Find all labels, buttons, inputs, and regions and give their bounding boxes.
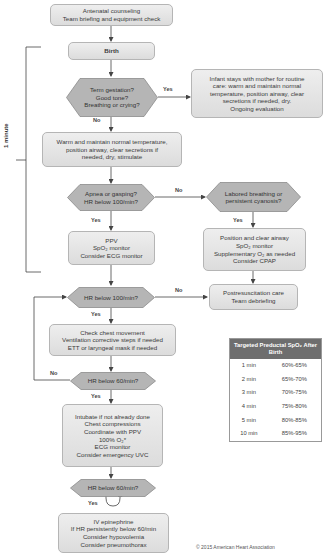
decision-apnea: Apnea or gasping? HR below 100/min? [67,184,155,211]
intubate-box: Intubate if not already done Chest compr… [62,404,163,467]
box-line: PPV [105,237,117,245]
edge-label-yes: Yes [91,311,101,317]
box-line: Warm and maintain normal temperature, [57,138,168,146]
box-line: Chest compressions [84,420,140,428]
box-line: If HR persistently below 60/min [71,525,156,533]
ppv-box: PPV SpO₂ monitor Consider ECG monitor [68,231,155,265]
box-line: Consider emergency UVC [77,451,149,459]
box-line: Coordinate with PPV [84,428,141,436]
decision-hr-below-60: HR below 60/min? [70,372,156,390]
table-row: 4 min75%-80% [230,400,322,414]
box-line: Consider pneumothorax [80,541,146,549]
table-row: 2 min65%-70% [230,373,322,387]
range-cell: 75%-80% [268,400,322,414]
box-line: Ventilation corrective steps if needed [62,336,163,344]
box-line: Ongoing evaluation [230,105,283,113]
decision-line: persistent cyanosis? [225,197,281,204]
box-line: Position and clear airway [220,234,289,242]
box-line: IV epinephrine [94,518,134,526]
table-title: Targeted Preductal SpO₂ After Birth [230,339,322,360]
range-cell: 80%-85% [268,413,322,427]
box-line: Team briefing and equipment check [63,15,161,23]
decision-labored-breathing: Labored breathing or persistent cyanosis… [206,182,301,212]
edge-label-yes: Yes [163,86,173,92]
decision-line: Breathing or crying? [84,101,139,108]
range-cell: 85%-95% [268,427,322,441]
range-cell: 65%-70% [268,373,322,387]
box-line: Infant stays with mother for routine [210,75,305,83]
table-row: 5 min80%-85% [230,413,322,427]
box-line: SpO₂ monitor [93,244,130,252]
check-chest-box: Check chest movement Ventilation correct… [49,324,176,356]
box-line: Intubate if not already done [75,413,150,421]
box-line: ECG monitor [95,443,131,451]
edge-label-no: No [175,187,182,193]
birth-box: Birth [68,42,155,60]
box-line: Antenatal counseling [83,7,140,15]
decision-hr-below-100: HR below 100/min? [67,287,155,308]
time-cell: 5 min [230,413,268,427]
box-line: position airway, clear secretions if [66,146,158,154]
decision-line: HR below 100/min? [84,294,138,301]
box-line: Postresuscitation care [223,289,284,297]
box-line: temperature, position airway, clear [210,90,304,98]
spo2-target-table: Targeted Preductal SpO₂ After Birth 1 mi… [229,338,322,442]
edge-label-no: No [50,370,57,376]
box-line: Birth [104,47,118,55]
table-row: 3 min70%-75% [230,386,322,400]
box-line: needed, dry, stimulate [82,153,142,161]
postresuscitation-box: Postresuscitation care Team debriefing [209,284,298,310]
copyright-notice: © 2015 American Heart Association [196,544,275,550]
routine-care-box: Infant stays with mother for routine car… [191,69,323,118]
decision-term-gestation: Term gestation? Good tone? Breathing or … [66,78,158,117]
box-line: secretions if needed, dry. [223,97,292,105]
one-minute-label: 1 minute [3,123,9,148]
time-cell: 10 min [230,427,268,441]
edge-label-yes: Yes [91,393,101,399]
warm-maintain-box: Warm and maintain normal temperature, po… [42,132,182,167]
time-cell: 1 min [230,359,268,373]
antenatal-counseling-box: Antenatal counseling Team briefing and e… [50,4,173,26]
table-row: 1 min60%-65% [230,359,322,373]
time-cell: 2 min [230,373,268,387]
edge-label-yes: Yes [233,217,243,223]
decision-line: HR below 60/min? [88,377,139,384]
iv-epinephrine-box: IV epinephrine If HR persistently below … [58,513,169,553]
decision-line: HR below 100/min? [84,198,138,205]
box-line: SpO₂ monitor [236,242,273,250]
edge-label-yes: Yes [91,217,101,223]
box-line: 100% O₂* [99,436,126,444]
table-row: 10 min85%-95% [230,427,322,441]
decision-line: Labored breathing or [225,190,282,197]
decision-line: Term gestation? [90,86,134,93]
box-line: Consider hypovolemia [83,533,144,541]
box-line: Consider CPAP [233,257,276,265]
decision-line: Good tone? [96,94,128,101]
box-line: Consider ECG monitor [80,252,142,260]
edge-label-no: No [93,117,100,123]
time-cell: 3 min [230,386,268,400]
range-cell: 60%-65% [268,359,322,373]
range-cell: 70%-75% [268,386,322,400]
box-line: Team debriefing [231,297,275,305]
box-line: Supplementary O₂ as needed [214,250,295,258]
box-line: ETT or laryngeal mask if needed [68,344,157,352]
decision-line: Apnea or gasping? [85,190,137,197]
decision-line: HR below 60/min? [88,484,139,491]
edge-label-yes: Yes [88,500,98,506]
decision-hr-below-60-second: HR below 60/min? [70,479,156,497]
edge-label-no: No [175,287,182,293]
position-airway-box: Position and clear airway SpO₂ monitor S… [203,228,306,271]
box-line: Check chest movement [80,329,145,337]
box-line: care: warm and maintain normal [213,82,301,90]
time-cell: 4 min [230,400,268,414]
